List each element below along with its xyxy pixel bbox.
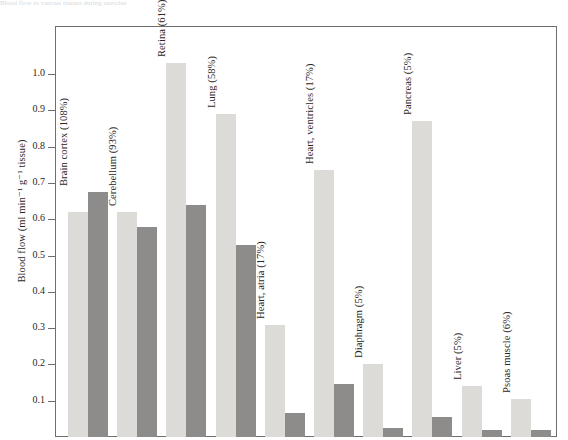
y-axis-tick: 0.6 bbox=[0, 219, 55, 220]
y-axis-tick: 0.9 bbox=[0, 110, 55, 111]
y-axis-tick: 0.3 bbox=[0, 328, 55, 329]
bar-light bbox=[166, 63, 186, 437]
y-axis-tick: 0.1 bbox=[0, 401, 55, 402]
y-axis-tick: 0.7 bbox=[0, 183, 55, 184]
y-axis-tick-mark bbox=[48, 292, 55, 293]
bar-group: Pancreas (5%) bbox=[412, 27, 452, 437]
y-axis-tick-mark bbox=[48, 256, 55, 257]
bar-group-label: Retina (61%) bbox=[156, 0, 167, 57]
bar-group: Liver (5%) bbox=[462, 27, 502, 437]
bar-light bbox=[314, 170, 334, 437]
y-axis-tick-label: 0.4 bbox=[33, 285, 46, 296]
y-axis-tick-label: 0.1 bbox=[33, 394, 46, 405]
blood-flow-bar-chart-figure: Blood flow to various tissues during exe… bbox=[0, 0, 568, 440]
bar-group-label: Cerebellum (93%) bbox=[107, 127, 118, 206]
bar-group-label: Liver (5%) bbox=[452, 333, 463, 380]
y-axis-tick-label: 0.9 bbox=[33, 103, 46, 114]
y-axis-tick-mark bbox=[48, 74, 55, 75]
y-axis-tick-label: 0.8 bbox=[33, 140, 46, 151]
bar-group: Brain cortex (108%) bbox=[68, 27, 108, 437]
bar-dark bbox=[186, 205, 206, 437]
bar-dark bbox=[432, 417, 452, 437]
y-axis-tick: 0.8 bbox=[0, 147, 55, 148]
y-axis-tick: 0.5 bbox=[0, 256, 55, 257]
y-axis-tick-label: 0.2 bbox=[33, 357, 46, 368]
bar-dark bbox=[531, 430, 551, 437]
figure-top-caption: Blood flow to various tissues during exe… bbox=[0, 0, 568, 8]
bar-light bbox=[68, 212, 88, 437]
y-axis-tick: 0.4 bbox=[0, 292, 55, 293]
bar-light bbox=[363, 364, 383, 437]
bar-light bbox=[511, 399, 531, 437]
bar-group-label: Brain cortex (108%) bbox=[58, 98, 69, 186]
y-axis-tick-label: 0.6 bbox=[33, 212, 46, 223]
bar-group: Retina (61%) bbox=[166, 27, 206, 437]
bar-light bbox=[216, 114, 236, 437]
y-axis-tick-label: 0.5 bbox=[33, 249, 46, 260]
bar-group-label: Pancreas (5%) bbox=[402, 53, 413, 115]
bar-group-label: Lung (58%) bbox=[206, 56, 217, 108]
bar-dark bbox=[236, 245, 256, 437]
y-axis-tick-mark bbox=[48, 328, 55, 329]
bar-group: Heart, ventricles (17%) bbox=[314, 27, 354, 437]
bar-dark bbox=[482, 430, 502, 437]
bar-group: Lung (58%) bbox=[216, 27, 256, 437]
y-axis-tick-mark bbox=[48, 401, 55, 402]
y-axis-tick: 0.2 bbox=[0, 364, 55, 365]
bar-group: Heart, atria (17%) bbox=[265, 27, 305, 437]
plot-area: Brain cortex (108%)Cerebellum (93%)Retin… bbox=[56, 27, 556, 437]
bar-group: Psoas muscle (6%) bbox=[511, 27, 551, 437]
y-axis-tick-mark bbox=[48, 147, 55, 148]
y-axis-tick-mark bbox=[48, 219, 55, 220]
y-axis-tick-label: 0.3 bbox=[33, 321, 46, 332]
bar-group: Diaphragm (5%) bbox=[363, 27, 403, 437]
bar-group-label: Diaphragm (5%) bbox=[353, 286, 364, 358]
bar-group-label: Psoas muscle (6%) bbox=[501, 311, 512, 393]
y-axis-tick-label: 1.0 bbox=[33, 67, 46, 78]
bar-light bbox=[462, 386, 482, 437]
bar-light bbox=[117, 212, 137, 437]
bar-dark bbox=[88, 192, 108, 437]
bar-group-label: Heart, ventricles (17%) bbox=[304, 64, 315, 165]
y-axis-tick-mark bbox=[48, 110, 55, 111]
bar-light bbox=[265, 325, 285, 437]
bar-dark bbox=[334, 384, 354, 437]
y-axis-tick-mark bbox=[48, 364, 55, 365]
bar-light bbox=[412, 121, 432, 437]
y-axis-title: Blood flow (ml min⁻¹ g⁻¹ tissue) bbox=[15, 86, 27, 336]
y-axis-tick-mark bbox=[48, 183, 55, 184]
y-axis-tick: 1.0 bbox=[0, 74, 55, 75]
bar-group-label: Heart, atria (17%) bbox=[255, 241, 266, 319]
bar-dark bbox=[383, 428, 403, 437]
bar-dark bbox=[137, 227, 157, 437]
bar-dark bbox=[285, 413, 305, 437]
y-axis-tick-label: 0.7 bbox=[33, 176, 46, 187]
bar-group: Cerebellum (93%) bbox=[117, 27, 157, 437]
